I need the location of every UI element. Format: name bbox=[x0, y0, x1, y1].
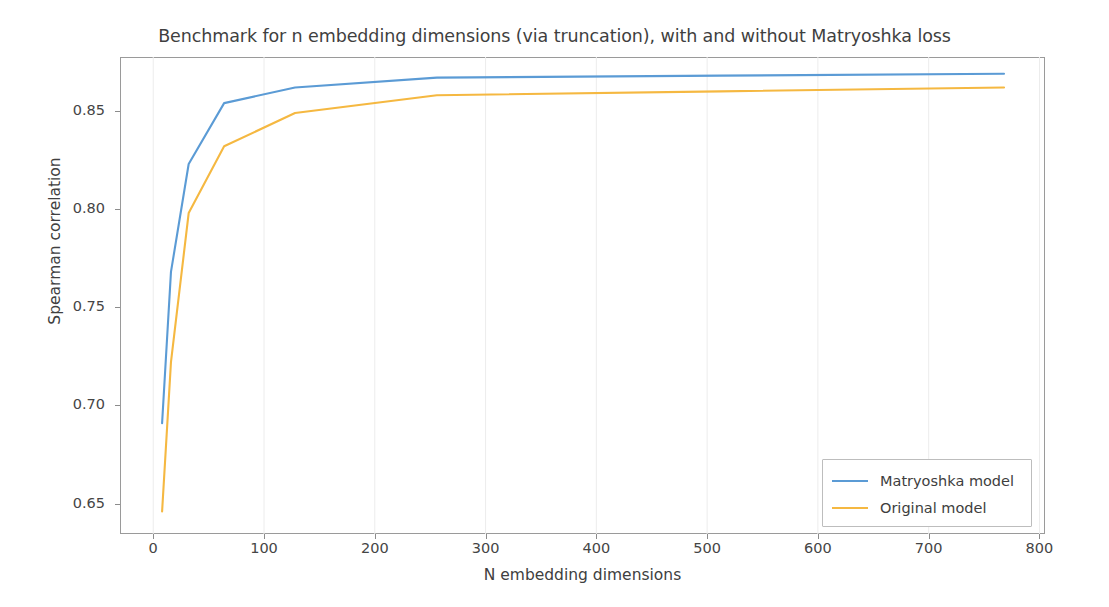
legend-line-swatch-original bbox=[832, 507, 868, 509]
x-tick-label: 300 bbox=[456, 540, 516, 556]
y-tick-mark bbox=[115, 209, 120, 210]
y-tick-mark bbox=[115, 111, 120, 112]
x-tick-mark bbox=[929, 534, 930, 539]
legend-item-original: Original model bbox=[832, 497, 987, 519]
x-axis-label: N embedding dimensions bbox=[120, 566, 1045, 584]
y-tick-value: 0.85 bbox=[45, 102, 105, 118]
x-tick-mark bbox=[1039, 534, 1040, 539]
y-tick-value: 0.65 bbox=[45, 495, 105, 511]
x-tick-mark bbox=[153, 534, 154, 539]
y-tick-label: 0.65 bbox=[45, 495, 105, 513]
x-tick-mark bbox=[375, 534, 376, 539]
chart-title: Benchmark for n embedding dimensions (vi… bbox=[0, 26, 1109, 46]
data-series-group bbox=[162, 74, 1004, 512]
x-tick-label: 700 bbox=[899, 540, 959, 556]
series-line-matryoshka bbox=[162, 74, 1004, 423]
x-tick-mark bbox=[707, 534, 708, 539]
x-tick-label: 600 bbox=[788, 540, 848, 556]
x-tick-mark bbox=[264, 534, 265, 539]
y-tick-label: 0.85 bbox=[45, 102, 105, 120]
series-line-original bbox=[162, 87, 1004, 511]
y-tick-mark bbox=[115, 405, 120, 406]
legend-label-matryoshka: Matryoshka model bbox=[880, 473, 1014, 489]
x-tick-mark bbox=[486, 534, 487, 539]
y-tick-mark bbox=[115, 307, 120, 308]
x-tick-label: 800 bbox=[1009, 540, 1069, 556]
x-tick-label: 200 bbox=[345, 540, 405, 556]
legend-label-original: Original model bbox=[880, 500, 987, 516]
x-tick-label: 400 bbox=[566, 540, 626, 556]
matplotlib-figure: Benchmark for n embedding dimensions (vi… bbox=[0, 0, 1109, 607]
x-tick-label: 0 bbox=[123, 540, 183, 556]
y-tick-label: 0.70 bbox=[45, 396, 105, 414]
y-axis-label: Spearman correlation bbox=[46, 131, 64, 351]
y-tick-mark bbox=[115, 504, 120, 505]
x-tick-label: 100 bbox=[234, 540, 294, 556]
chart-legend: Matryoshka model Original model bbox=[822, 459, 1032, 527]
legend-item-matryoshka: Matryoshka model bbox=[832, 470, 1014, 492]
x-tick-label: 500 bbox=[677, 540, 737, 556]
x-tick-mark bbox=[818, 534, 819, 539]
x-tick-mark bbox=[596, 534, 597, 539]
y-tick-value: 0.70 bbox=[45, 396, 105, 412]
legend-line-swatch-matryoshka bbox=[832, 480, 868, 482]
